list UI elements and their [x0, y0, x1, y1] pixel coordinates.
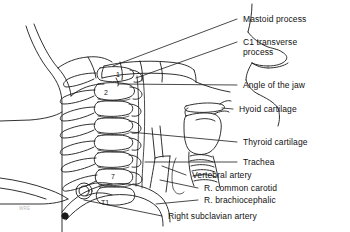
label-r-common-carotid: R. common carotid [204, 183, 277, 194]
label-c1-transverse-process: C1 transverse [243, 37, 297, 48]
anatomy-illustration: 1 2 7 T1 [0, 0, 350, 232]
svg-text:7: 7 [111, 173, 115, 180]
label-trachea: Trachea [243, 157, 275, 168]
label-thyroid-cartilage: Thyroid cartilage [243, 137, 308, 148]
label-c1-transverse-process-line2: process [243, 47, 273, 58]
label-right-subclavian-artery: Right subclavian artery [168, 211, 257, 222]
svg-text:2: 2 [104, 89, 108, 96]
label-vertebral-artery: Vertebral artery [192, 170, 252, 181]
label-angle-of-the-jaw: Angle of the jaw [243, 80, 305, 91]
label-hyoid-cartilage: Hyoid cartilage [239, 104, 297, 115]
label-mastoid-process: Mastoid process [243, 14, 306, 25]
label-r-brachiocephalic: R. brachiocephalic [204, 195, 276, 206]
svg-text:1: 1 [116, 71, 120, 78]
anatomy-diagram-figure: 1 2 7 T1 [0, 0, 350, 232]
watermark-text: WRE [19, 206, 30, 211]
